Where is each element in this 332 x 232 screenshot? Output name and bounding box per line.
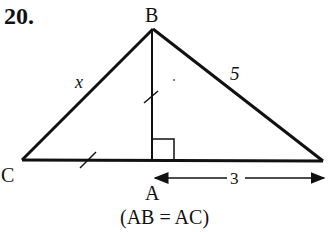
label-x: x [74, 72, 83, 92]
label-3: 3 [230, 169, 239, 188]
right-angle-marker [152, 139, 174, 160]
condition-text: (AB = AC) [120, 206, 209, 229]
vertex-c-label: C [1, 164, 14, 186]
vertex-b-label: B [145, 4, 158, 26]
triangle-diagram: 20. x 5 3 B C A (AB = AC) [0, 0, 332, 232]
side-cb [22, 29, 153, 160]
side-b-right [153, 29, 323, 161]
base-line [22, 160, 323, 161]
stray-dot [173, 79, 175, 81]
problem-number: 20. [4, 3, 34, 29]
vertex-a-label: A [145, 182, 160, 204]
label-5: 5 [230, 63, 240, 84]
